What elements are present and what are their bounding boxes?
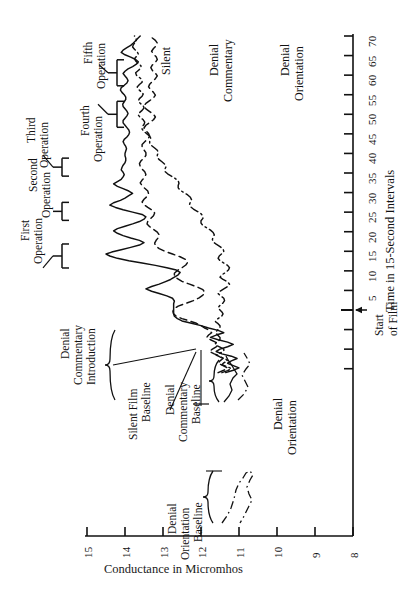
- conductance-tick-label: 8: [348, 552, 360, 558]
- denial-commentary-baseline-line1: Denial: [165, 384, 177, 415]
- time-tick-label: 15: [366, 251, 378, 262]
- denial-commentary-baseline-line2: Commentary: [178, 382, 190, 442]
- conductance-tick-label: 15: [82, 547, 94, 558]
- time-tick-label: 5: [366, 296, 378, 302]
- start-of-film-arrow-head: [355, 307, 362, 313]
- denial-orientation-curve-label-line1: Denial: [279, 44, 291, 76]
- series-silent: [106, 36, 239, 373]
- silent-film-baseline-line2: Baseline: [141, 382, 153, 422]
- fourth-operation-label-line2: Operation: [93, 116, 105, 162]
- denial-orientation-lower-label-line1: Denial: [272, 398, 284, 430]
- third-operation-bracket: [53, 158, 69, 176]
- conductance-tick-label: 9: [310, 552, 322, 558]
- conductance-tick-label: 12: [196, 547, 208, 558]
- sfb-text-1: Silent Film: [128, 389, 140, 440]
- third-operation-text-2: Operation: [39, 122, 51, 168]
- fifth-operation-label-line1: Fifth: [83, 42, 95, 64]
- time-tick-label: 25: [366, 212, 378, 223]
- fifth-operation-text-2: Operation: [96, 43, 108, 89]
- denial-orientation-lower-text-2: Orientation: [286, 400, 298, 455]
- fifth-operation-bracket: [108, 60, 124, 86]
- start-of-film-line2: of Film: [388, 302, 400, 336]
- series-denial-orientation: [133, 36, 232, 373]
- denial-orientation-baseline-line1: Denial: [167, 503, 179, 534]
- conductance-tick-label: 11: [234, 547, 246, 558]
- dcb-text-1: Denial: [165, 384, 177, 415]
- series-denial-commentary: [139, 36, 227, 373]
- denial-commentary-baseline-bracket: [209, 360, 219, 402]
- fourth-operation-label-line1: Fourth: [80, 105, 92, 136]
- denial-commentary-introduction-line2: Commentary: [73, 325, 85, 385]
- denial-orientation-lower-label-line2: Orientation: [286, 400, 298, 455]
- first-operation-label-line1: First: [20, 220, 32, 241]
- start-of-film-label-2: of Film: [388, 302, 400, 336]
- second-operation-text-2: Operation: [41, 172, 53, 218]
- sfb-text-2: Baseline: [141, 382, 153, 422]
- time-tick-label: 35: [366, 173, 378, 184]
- time-tick-label: 45: [366, 133, 378, 144]
- dci-leader: [113, 349, 196, 365]
- fifth-operation-text-1: Fifth: [83, 42, 95, 64]
- silent-curve-label: Silent: [160, 47, 172, 75]
- fifth-operation-label-line2: Operation: [96, 43, 108, 89]
- time-tick-label: 20: [366, 231, 378, 242]
- denial-commentary-introduction-line1: Denial: [60, 328, 72, 359]
- first-operation-text-1: First: [20, 220, 32, 241]
- conductance-tick-label: 14: [120, 547, 132, 558]
- first-operation-label-line2: Operation: [33, 218, 45, 264]
- third-operation-text-1: Third: [26, 117, 38, 143]
- conductance-axis-title: Conductance in Micromhos: [104, 562, 243, 577]
- axes-layer: [85, 34, 367, 536]
- dob-text-1: Denial: [167, 503, 179, 534]
- fourth-operation-bracket: [108, 101, 124, 127]
- denial-orientation-lower-text-1: Denial: [272, 398, 284, 430]
- first-operation-text-2: Operation: [33, 218, 45, 264]
- time-tick-label: 40: [366, 153, 378, 164]
- conductance-tick-label: 13: [158, 547, 170, 558]
- time-tick-label: 10: [366, 270, 378, 281]
- third-operation-label-line1: Third: [26, 117, 38, 143]
- start-of-film-label: Start: [374, 314, 386, 336]
- denial-commentary-baseline-trace: [238, 353, 250, 400]
- denial-commentary-label-text-2: Commentary: [222, 39, 234, 102]
- denial-orientation-baseline-trace: [222, 471, 253, 523]
- figure-gsr-conductance-chart: 510152025303540455055606570 Time in 15-S…: [0, 0, 402, 591]
- denial-commentary-curve-label-line2: Commentary: [222, 39, 234, 102]
- fourth-operation-text-2: Operation: [93, 116, 105, 162]
- curves-layer: [106, 36, 253, 523]
- time-tick-label: 55: [366, 94, 378, 105]
- fourth-operation-leader: [98, 104, 108, 114]
- dcb-text-2: Commentary: [178, 382, 190, 442]
- denial-orientation-baseline-line2: Orientation: [180, 508, 192, 560]
- third-operation-label-line2: Operation: [39, 122, 51, 168]
- second-operation-label-line2: Operation: [41, 172, 53, 218]
- dci-text-1: Denial: [60, 328, 72, 359]
- time-tick-label: 50: [366, 114, 378, 125]
- start-of-film-line1: Start: [374, 314, 386, 336]
- denial-commentary-label-text-1: Denial: [208, 44, 220, 76]
- time-tick-label: 65: [366, 55, 378, 66]
- denial-commentary-introduction-line3: Introduction: [86, 328, 98, 385]
- annotation-leaders-layer: [43, 60, 222, 523]
- dcb-text-3: Baseline: [191, 384, 203, 424]
- time-tick-label: 70: [366, 36, 378, 47]
- first-operation-bracket: [53, 244, 69, 268]
- time-tick-label: 30: [366, 192, 378, 203]
- dob-text-3: Baseline: [193, 502, 205, 542]
- silent-curve-label-text: Silent: [160, 47, 172, 75]
- denial-commentary-baseline-line3: Baseline: [191, 384, 203, 424]
- dci-text-3: Introduction: [86, 328, 98, 385]
- silent-film-baseline-trace: [224, 356, 237, 402]
- time-tick-label: 60: [366, 75, 378, 86]
- conductance-tick-label: 10: [272, 547, 284, 558]
- denial-orientation-label-text-2: Orientation: [293, 46, 305, 101]
- denial-orientation-baseline-line3: Baseline: [193, 502, 205, 542]
- dob-text-2: Orientation: [180, 508, 192, 560]
- time-axis-title: Time in 15-Second Intervals: [383, 170, 398, 312]
- fourth-operation-text-1: Fourth: [80, 105, 92, 136]
- silent-film-baseline-line1: Silent Film: [128, 389, 140, 440]
- denial-orientation-curve-label-line2: Orientation: [293, 46, 305, 101]
- denial-orientation-label-text-1: Denial: [279, 44, 291, 76]
- dci-text-2: Commentary: [73, 325, 85, 385]
- denial-commentary-curve-label-line1: Denial: [208, 44, 220, 76]
